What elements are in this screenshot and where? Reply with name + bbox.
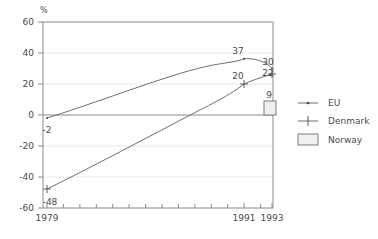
data-label-denmark-1979: -48 [43, 197, 58, 207]
y-tick-label: 20 [23, 79, 35, 89]
y-tick-label: 0 [28, 110, 34, 120]
data-label-eu-1991: 37 [232, 46, 243, 56]
data-label-denmark-1991: 20 [232, 71, 244, 81]
x-tick-label: 1979 [36, 213, 59, 223]
y-tick-label: 60 [23, 17, 35, 27]
y-tick-label: -60 [19, 203, 34, 213]
data-label-eu-1993: 30 [262, 57, 274, 67]
y-tick-label: -40 [19, 172, 34, 182]
chart-svg: 60 40 20 0 -20 -40 -60 % [0, 0, 378, 239]
marker-eu-1991 [243, 58, 245, 60]
y-tick-label: 40 [23, 48, 35, 58]
x-tick-label: 1993 [261, 213, 284, 223]
legend-label-denmark: Denmark [328, 116, 370, 126]
data-label-norway-1993: 9 [266, 90, 272, 100]
x-tick-label: 1991 [233, 213, 256, 223]
data-label-eu-1979: -2 [43, 125, 52, 135]
bar-norway-1993 [264, 101, 276, 115]
legend-item-denmark[interactable]: Denmark [298, 116, 370, 126]
x-axis-labels: 1979 1991 1993 [36, 213, 284, 223]
marker-eu-1979 [46, 117, 48, 119]
data-label-denmark-1993: 22 [262, 68, 273, 78]
y-axis-unit-label: % [40, 6, 48, 15]
dot-icon [307, 102, 310, 105]
chart-legend: EU Denmark Norway [298, 98, 370, 145]
y-tick-label: -20 [19, 141, 34, 151]
y-axis-ticks [38, 22, 43, 208]
y-axis-labels: 60 40 20 0 -20 -40 -60 [19, 17, 34, 213]
legend-label-eu: EU [328, 98, 340, 108]
legend-item-norway[interactable]: Norway [298, 134, 363, 145]
chart-figure: 60 40 20 0 -20 -40 -60 % [0, 0, 378, 239]
rect-swatch-icon [298, 134, 318, 145]
legend-item-eu[interactable]: EU [298, 98, 340, 108]
legend-label-norway: Norway [328, 135, 363, 145]
